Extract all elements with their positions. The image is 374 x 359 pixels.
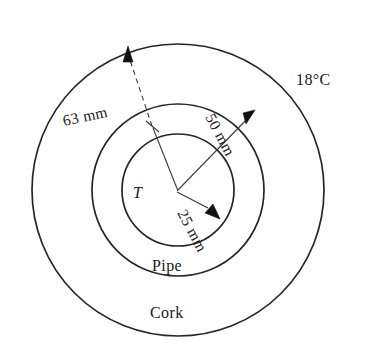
leader-line-25mm <box>177 192 208 208</box>
figure-container: 63 mm 50 mm 25 mm T Pipe Cork 18°C <box>0 0 374 359</box>
label-pipe-layer: Pipe <box>152 257 182 275</box>
label-ambient-temperature: 18°C <box>296 71 331 88</box>
tick-mark-63mm-crossing <box>146 121 159 132</box>
dimension-label-50mm: 50 mm <box>202 110 238 158</box>
label-inner-temperature: T <box>133 184 143 201</box>
label-cork-layer: Cork <box>150 304 184 321</box>
dimension-label-63mm: 63 mm <box>61 103 109 129</box>
leader-line-63mm-solid <box>153 128 178 191</box>
cross-section-diagram: 63 mm 50 mm 25 mm T Pipe Cork 18°C <box>0 0 374 359</box>
arrow-head-25mm <box>205 204 220 219</box>
dimension-label-25mm: 25 mm <box>174 206 210 254</box>
